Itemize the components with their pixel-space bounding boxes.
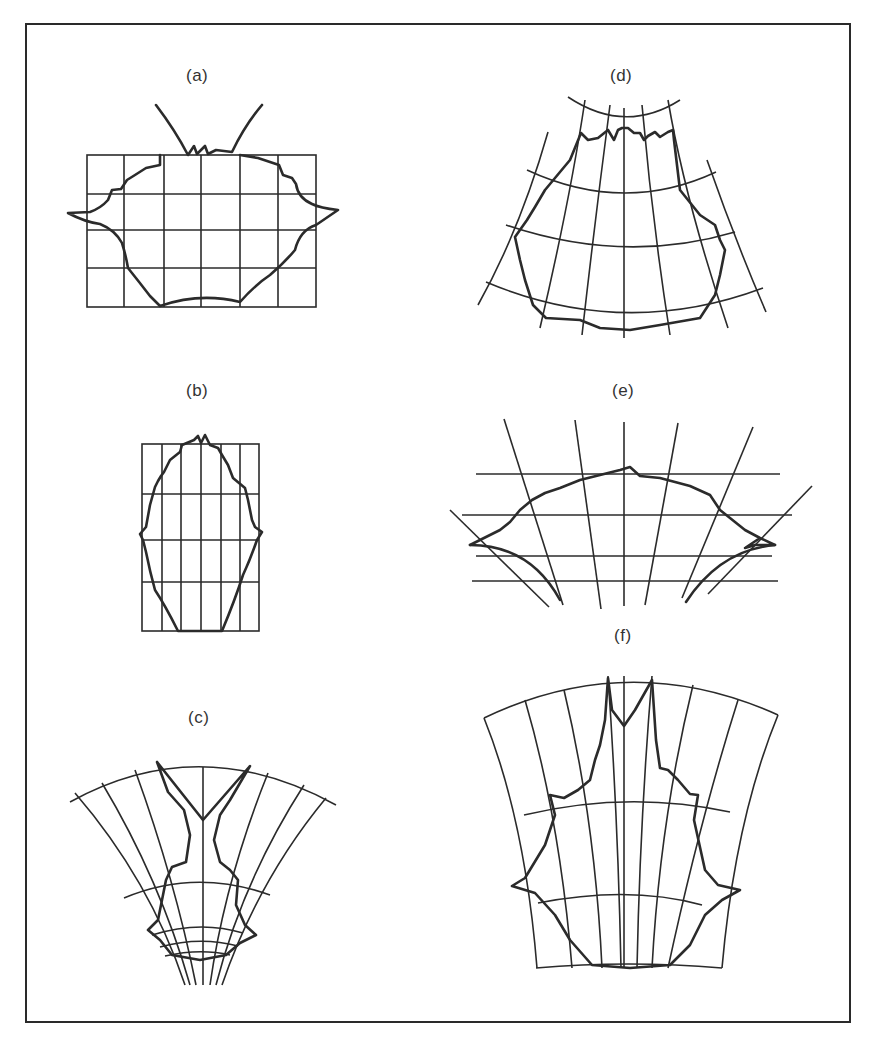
figure-drawing [0, 0, 876, 1044]
panel-a-diagram [68, 105, 338, 307]
panel-c-diagram [70, 762, 336, 985]
panel-b-diagram [140, 435, 262, 631]
panel-d-diagram [478, 97, 766, 338]
panel-f-diagram [484, 676, 778, 968]
panel-e-diagram [450, 419, 812, 609]
